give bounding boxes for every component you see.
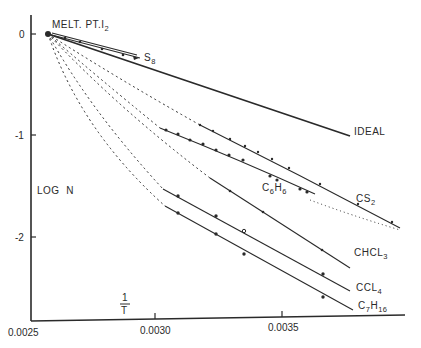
solid-lines xyxy=(48,33,400,310)
y-tick-label-neg2: -2 xyxy=(15,232,24,243)
c7h16-point xyxy=(242,252,245,255)
c6h6-point xyxy=(188,138,191,141)
chcl3-label: CHCL3 xyxy=(354,247,388,261)
chcl3-point xyxy=(262,211,265,214)
ccl4-point xyxy=(242,229,245,232)
ccl4-point xyxy=(321,272,324,275)
c7h16-point xyxy=(214,232,217,235)
x-tick-label-0035: 0.0035 xyxy=(268,322,299,333)
c7h16-line xyxy=(165,206,353,310)
c6h6-point xyxy=(305,190,308,193)
solubility-chart: 0 -1 -2 0.0025 0.0030 0.0035 LOG N 1 T xyxy=(0,0,421,348)
y-tick-label-neg1: -1 xyxy=(15,130,24,141)
cs2-point xyxy=(319,183,321,185)
x-tick-label-0025: 0.0025 xyxy=(8,327,39,338)
x-tick-label-0030: 0.0030 xyxy=(140,325,171,336)
c6h6-point xyxy=(201,142,204,145)
c6h6-point xyxy=(241,158,244,161)
c6h6-point xyxy=(268,174,271,177)
c7h16-label: C7H16 xyxy=(358,300,387,314)
s8-line xyxy=(48,33,140,58)
x-axis-label-numerator: 1 xyxy=(122,292,128,303)
axes xyxy=(31,15,405,321)
x-axis xyxy=(31,315,405,321)
cs2-point xyxy=(288,167,290,169)
x-axis-label-denominator: T xyxy=(121,305,127,316)
s8-point xyxy=(101,48,104,51)
c7h16-point xyxy=(321,295,324,298)
y-tick-label-0: 0 xyxy=(19,29,25,40)
cs2-point xyxy=(257,151,259,153)
cs2-point xyxy=(199,124,201,126)
cs2-point xyxy=(391,221,393,223)
cs2-line xyxy=(200,125,400,228)
x-axis-label: 1 T xyxy=(120,292,130,316)
c6h6-line xyxy=(160,128,315,194)
s8-point xyxy=(122,54,125,57)
cs2-dashed xyxy=(48,34,200,125)
cs2-label: CS2 xyxy=(356,193,376,207)
y-axis-label: LOG N xyxy=(37,185,74,196)
chcl3-point xyxy=(321,249,324,252)
s8-point xyxy=(64,37,67,40)
melt-point-marker xyxy=(45,31,51,37)
c6h6-point xyxy=(298,187,301,190)
c7h16-point xyxy=(176,211,179,214)
s8-point xyxy=(79,41,82,44)
c6h6-point xyxy=(214,148,217,151)
c6h6-point xyxy=(176,132,179,135)
c6h6-point xyxy=(164,128,167,131)
c6h6-point xyxy=(227,153,230,156)
data-points xyxy=(45,31,393,299)
ideal-line xyxy=(48,34,350,136)
ccl4-point xyxy=(214,214,217,217)
cs2-point xyxy=(212,130,214,132)
ccl4-point xyxy=(176,194,179,197)
ccl4-label: CCL4 xyxy=(356,282,382,296)
ideal-label: IDEAL xyxy=(354,126,385,137)
melt-point-label: MELT. PT.I2 xyxy=(52,19,109,33)
c6h6-label: C6H6 xyxy=(262,182,287,196)
chcl3-point xyxy=(229,190,232,193)
cs2-point xyxy=(229,138,231,140)
s8-label: S8 xyxy=(144,52,156,66)
cs2-point xyxy=(244,145,246,147)
cs2-point xyxy=(271,158,273,160)
